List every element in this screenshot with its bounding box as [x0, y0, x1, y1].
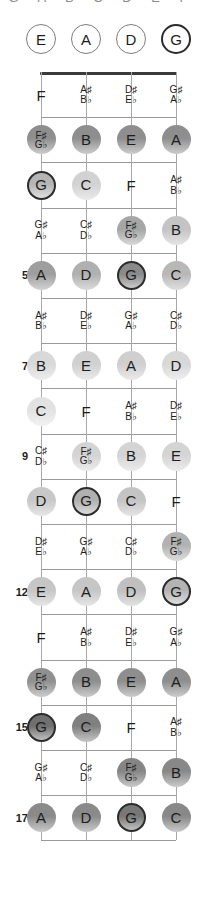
note-flat-name: B♭: [64, 638, 108, 649]
note-label: D: [81, 268, 92, 282]
note-text: A♯B♭: [19, 311, 63, 332]
note-marker[interactable]: F♯G♭: [162, 532, 191, 561]
note-marker[interactable]: B: [162, 216, 191, 245]
note-marker[interactable]: A: [162, 668, 191, 697]
note-label: A: [36, 811, 46, 825]
note-label: F♯G♭: [35, 131, 48, 149]
note-marker[interactable]: D: [117, 577, 146, 606]
open-string-a[interactable]: A: [71, 24, 101, 54]
note-label: E: [126, 133, 136, 147]
note-label: G: [35, 720, 47, 734]
note-label: G: [35, 178, 47, 192]
note-marker[interactable]: G: [117, 803, 146, 832]
note-marker[interactable]: B: [27, 351, 56, 380]
note-marker[interactable]: F♯G♭: [117, 758, 146, 787]
note-marker[interactable]: C: [162, 261, 191, 290]
note-marker[interactable]: A: [27, 803, 56, 832]
note-marker[interactable]: G: [27, 713, 56, 742]
note-text: F: [109, 178, 153, 193]
note-label: F♯G♭: [170, 537, 183, 555]
note-flat-name: A♭: [154, 95, 198, 106]
note-marker[interactable]: G: [162, 577, 191, 606]
note-marker[interactable]: G: [72, 487, 101, 516]
note-marker[interactable]: D: [162, 351, 191, 380]
note-label: C: [171, 268, 182, 282]
note-flat-name: D♭: [64, 231, 108, 242]
note-label: A: [36, 268, 46, 282]
open-string-g[interactable]: G: [161, 24, 191, 54]
note-marker[interactable]: C: [72, 713, 101, 742]
note-label: A: [81, 585, 91, 599]
note-marker[interactable]: E: [162, 442, 191, 471]
note-sharp-name: A♯: [109, 401, 153, 412]
note-marker[interactable]: D: [72, 261, 101, 290]
note-text: C♯D♭: [19, 446, 63, 467]
note-label: G: [125, 268, 137, 282]
note-marker[interactable]: B: [72, 668, 101, 697]
note-flat-name: G♭: [125, 230, 138, 239]
note-marker[interactable]: F♯G♭: [27, 125, 56, 154]
fret-wire-2: [41, 162, 176, 163]
note-flat-name: D♭: [64, 773, 108, 784]
note-marker[interactable]: A: [72, 577, 101, 606]
note-marker[interactable]: G: [27, 171, 56, 200]
note-label: C: [126, 494, 137, 508]
note-marker[interactable]: F♯G♭: [117, 216, 146, 245]
note-text: D♯E♭: [154, 401, 198, 422]
note-marker[interactable]: E: [72, 351, 101, 380]
open-string-e[interactable]: E: [26, 24, 56, 54]
note-flat-name: A♭: [154, 638, 198, 649]
note-marker[interactable]: C: [72, 171, 101, 200]
note-text: G♯A♭: [19, 763, 63, 784]
fret-wire-17: [41, 840, 176, 841]
note-text: G♯A♭: [19, 220, 63, 241]
fret-wire-14: [41, 705, 176, 706]
note-flat-name: E♭: [154, 412, 198, 423]
note-marker[interactable]: E: [27, 577, 56, 606]
note-flat-name: A♭: [64, 547, 108, 558]
note-flat-name: B♭: [154, 186, 198, 197]
note-label: D: [171, 359, 182, 373]
note-flat-name: E♭: [109, 638, 153, 649]
fret-number-12: 12: [8, 586, 28, 598]
note-text: C♯D♭: [64, 763, 108, 784]
note-marker[interactable]: A: [117, 351, 146, 380]
open-string-d[interactable]: D: [116, 24, 146, 54]
note-marker[interactable]: C: [162, 803, 191, 832]
note-text: A♯B♭: [64, 627, 108, 648]
note-marker[interactable]: C: [27, 397, 56, 426]
note-label: E: [81, 359, 91, 373]
note-marker[interactable]: E: [117, 125, 146, 154]
fret-wire-6: [41, 343, 176, 344]
fret-wire-3: [41, 208, 176, 209]
note-marker[interactable]: F♯G♭: [72, 442, 101, 471]
fret-wire-5: [41, 298, 176, 299]
open-string-label: G: [170, 31, 182, 48]
fret-number-15: 15: [8, 721, 28, 733]
note-marker[interactable]: B: [72, 125, 101, 154]
note-marker[interactable]: F♯G♭: [27, 668, 56, 697]
open-string-label: D: [126, 31, 137, 48]
note-marker[interactable]: B: [162, 758, 191, 787]
note-flat-name: D♭: [109, 547, 153, 558]
fret-wire-12: [41, 614, 176, 615]
note-flat-name: A♭: [19, 773, 63, 784]
note-text: D♯E♭: [109, 627, 153, 648]
note-marker[interactable]: C: [117, 487, 146, 516]
note-text: G♯A♭: [109, 311, 153, 332]
fret-wire-7: [41, 388, 176, 389]
note-marker[interactable]: A: [27, 261, 56, 290]
note-text: G♯A♭: [154, 627, 198, 648]
note-marker[interactable]: E: [117, 668, 146, 697]
note-marker[interactable]: G: [117, 261, 146, 290]
note-marker[interactable]: D: [27, 487, 56, 516]
note-flat-name: E♭: [64, 321, 108, 332]
note-text: A♯B♭: [109, 401, 153, 422]
note-marker[interactable]: A: [162, 125, 191, 154]
note-text: F: [19, 630, 63, 645]
note-text: A♯B♭: [154, 175, 198, 196]
note-marker[interactable]: D: [72, 803, 101, 832]
note-marker[interactable]: B: [117, 442, 146, 471]
note-flat-name: D♭: [19, 457, 63, 468]
note-flat-name: A♭: [19, 231, 63, 242]
